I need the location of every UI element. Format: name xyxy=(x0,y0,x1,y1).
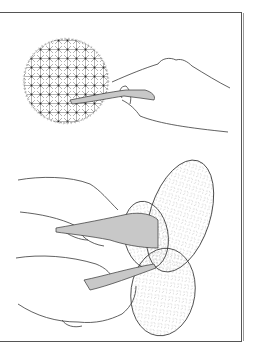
round-cactus xyxy=(24,39,108,123)
hand-bottom xyxy=(16,256,136,327)
cactus-illustration xyxy=(0,0,257,355)
knife-middle xyxy=(56,213,158,248)
